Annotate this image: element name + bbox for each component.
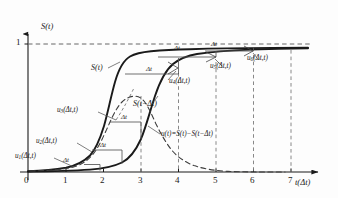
label-u1: u1(Δt,t): [15, 153, 36, 160]
label-u5: u5(Δt,t): [210, 63, 231, 70]
x-axis-label: t(Δt): [295, 178, 310, 187]
curve-label-s-t-minus-dt: S(t−Δt): [133, 100, 157, 108]
x-tick-label-1: 1: [63, 176, 68, 185]
label-u3-args: (Δt,t): [63, 106, 78, 114]
label-u4: u4(Δt,t): [169, 78, 190, 85]
x-tick-label-6: 6: [250, 176, 255, 185]
label-delta-t-6: Δt: [211, 41, 217, 48]
x-tick-label-2: 2: [100, 176, 105, 185]
x-tick-label-0: 0: [24, 176, 29, 185]
step-u2: [92, 150, 122, 164]
label-u5-args: (Δt,t): [216, 62, 231, 70]
leader-u2: [77, 143, 92, 152]
label-u1-args: (Δt,t): [21, 152, 36, 160]
label-u3: u3(Δt,t): [57, 107, 78, 114]
label-delta-t-1: Δt: [63, 157, 69, 164]
label-u2-args: (Δt,t): [42, 137, 57, 145]
figure-container: S(t) t(Δt) 1 0 1 2 3 4 5 6 7 S(t) S(t−Δt…: [0, 0, 338, 198]
label-u6: u6(Δt,t): [247, 55, 268, 62]
label-u6-args: (Δt,t): [253, 54, 268, 62]
y-axis-label: S(t): [41, 22, 53, 31]
x-tick-label-7: 7: [288, 176, 293, 185]
x-tick-label-5: 5: [213, 176, 218, 185]
curve-label-s-t: S(t): [91, 64, 103, 72]
label-delta-t-3: Δt: [121, 114, 127, 121]
label-u4-args: (Δt,t): [175, 77, 190, 85]
x-tick-label-4: 4: [175, 176, 180, 185]
label-delta-t-5: Δt: [174, 45, 180, 52]
leader-u-equation: [148, 126, 160, 134]
label-delta-t-2: Δt: [100, 142, 106, 149]
label-u2: u2(Δt,t): [36, 138, 57, 145]
y-tick-label-1: 1: [16, 38, 21, 47]
curve-label-u-equation: u(t)=S(t)−S(t−Δt): [161, 131, 213, 138]
step-u3: [110, 122, 141, 139]
x-tick-label-3: 3: [138, 176, 143, 185]
label-delta-t-4: Δt: [146, 66, 152, 73]
leader-s-t: [108, 62, 120, 68]
